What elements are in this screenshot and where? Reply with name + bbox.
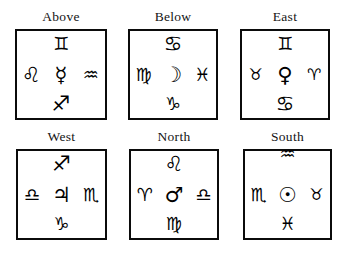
symbol-taurus: ♉ <box>249 67 263 83</box>
symbol-leo: ♌ <box>165 154 184 175</box>
symbol-libra: ♎ <box>195 186 211 204</box>
panel-title-above: Above <box>15 10 107 24</box>
symbol-sun: ☉ <box>278 184 297 205</box>
symbol-libra: ♎ <box>24 186 40 204</box>
symbol-scorpio: ♏ <box>251 186 267 204</box>
panel-box-north: ♌ ♈ ♂ ♎ ♍ <box>129 149 219 240</box>
symbol-aries: ♈ <box>307 67 321 83</box>
symbol-pisces: ♓ <box>279 215 295 233</box>
symbol-sagittarius: ♐ <box>52 94 71 115</box>
symbol-leo: ♌ <box>22 64 41 85</box>
panel-above: Above ♊ ♌ ☿ ♒ ♐ <box>15 10 107 120</box>
panel-east: East ♊ ♉ ♀ ♈ ♋ <box>240 10 330 120</box>
symbol-mars: ♂ <box>165 184 184 205</box>
symbol-sagittarius: ♐ <box>52 154 71 175</box>
symbol-aries: ♈ <box>137 186 153 204</box>
panel-below: Below ♋ ♍ ☽ ♓ ♑ <box>128 10 218 120</box>
symbol-taurus: ♉ <box>309 187 323 203</box>
symbol-cancer: ♋ <box>276 94 295 115</box>
symbol-aquarius: ♒ <box>279 145 295 163</box>
symbol-gemini: ♊ <box>53 35 69 53</box>
symbol-jupiter: ♃ <box>52 184 71 205</box>
panel-south: South ♒ ♏ ☉ ♉ ♓ <box>243 130 332 240</box>
symbol-virgo: ♍ <box>136 66 152 84</box>
symbol-gemini: ♊ <box>277 35 293 53</box>
symbol-grid-diagram: Above ♊ ♌ ☿ ♒ ♐ Below ♋ ♍ ☽ ♓ ♑ East ♊ ♉… <box>0 0 346 258</box>
symbol-scorpio: ♏ <box>83 186 99 204</box>
symbol-venus: ♀ <box>277 64 292 85</box>
symbol-cancer: ♋ <box>164 34 183 55</box>
panel-west: West ♐ ♎ ♃ ♏ ♑ <box>16 130 107 240</box>
panel-box-south: ♒ ♏ ☉ ♉ ♓ <box>243 149 332 240</box>
panel-box-east: ♊ ♉ ♀ ♈ ♋ <box>240 29 330 120</box>
panel-box-west: ♐ ♎ ♃ ♏ ♑ <box>16 149 107 240</box>
panel-title-north: North <box>129 130 219 144</box>
panel-title-east: East <box>240 10 330 24</box>
symbol-virgo: ♍ <box>166 215 182 233</box>
panel-north: North ♌ ♈ ♂ ♎ ♍ <box>129 130 219 240</box>
panel-title-west: West <box>16 130 107 144</box>
symbol-pisces: ♓ <box>194 66 210 84</box>
symbol-aquarius: ♒ <box>83 66 99 84</box>
panel-box-above: ♊ ♌ ☿ ♒ ♐ <box>15 29 107 120</box>
panel-title-south: South <box>243 130 332 144</box>
symbol-mercury: ☿ <box>55 64 68 85</box>
panel-box-below: ♋ ♍ ☽ ♓ ♑ <box>128 29 218 120</box>
symbol-moon: ☽ <box>164 64 183 85</box>
symbol-capricorn: ♑ <box>165 95 181 113</box>
symbol-capricorn: ♑ <box>53 215 69 233</box>
panel-title-below: Below <box>128 10 218 24</box>
